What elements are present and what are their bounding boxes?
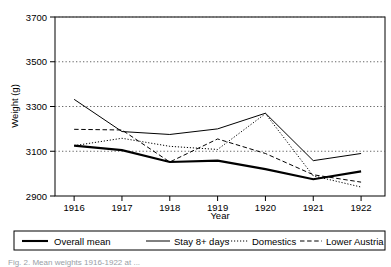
- y-tick-label-3500: 3500: [26, 56, 47, 67]
- gridlines: [55, 17, 385, 151]
- x-tick-label-1918: 1918: [159, 202, 180, 213]
- x-tick-label-1921: 1921: [303, 202, 324, 213]
- legend: Overall meanStay 8+ daysDomesticsLower A…: [14, 231, 385, 250]
- x-tick-label-1922: 1922: [351, 202, 372, 213]
- line-chart: 29003100330035003700 1916191719181919192…: [0, 0, 391, 267]
- legend-label-overall-mean: Overall mean: [54, 236, 111, 247]
- legend-label-stay-8-days: Stay 8+ days: [174, 236, 229, 247]
- data-series-group: [74, 99, 361, 187]
- y-tick-label-3100: 3100: [26, 146, 47, 157]
- x-tick-label-1920: 1920: [255, 202, 276, 213]
- figure-container: 29003100330035003700 1916191719181919192…: [0, 0, 391, 267]
- y-axis-title: Weight (g): [9, 84, 20, 128]
- legend-label-lower-austria: Lower Austria: [326, 236, 384, 247]
- y-axis: 29003100330035003700: [26, 12, 55, 202]
- y-tick-label-2900: 2900: [26, 191, 47, 202]
- x-tick-label-1917: 1917: [111, 202, 132, 213]
- series-line-overall-mean: [74, 146, 361, 180]
- legend-items: Overall meanStay 8+ daysDomesticsLower A…: [22, 236, 384, 247]
- series-line-lower-austria: [74, 129, 361, 182]
- legend-label-domestics: Domestics: [252, 236, 297, 247]
- x-axis-title: Year: [210, 210, 229, 221]
- y-tick-label-3300: 3300: [26, 101, 47, 112]
- figure-caption: Fig. 2. Mean weights 1916-1922 at ...: [8, 258, 140, 267]
- x-tick-label-1916: 1916: [64, 202, 85, 213]
- y-tick-label-3700: 3700: [26, 12, 47, 23]
